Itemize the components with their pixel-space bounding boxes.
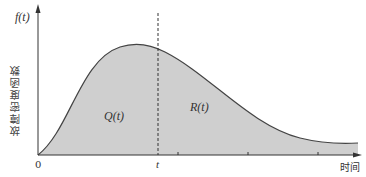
y-axis-label-side: 故障密度函数 [7,64,22,136]
y-axis-arrow-icon [36,4,41,13]
region-label-r: R(t) [190,100,209,115]
region-label-q: Q(t) [104,109,124,124]
x-axis-label: 时间 [340,159,360,174]
failure-density-diagram: f(t) 故障密度函数 Q(t) R(t) 0 t 时间 [0,0,366,177]
y-axis-label-ft: f(t) [15,10,30,25]
origin-label: 0 [35,159,41,170]
diagram-canvas [0,0,366,177]
t-marker-label: t [156,158,159,170]
